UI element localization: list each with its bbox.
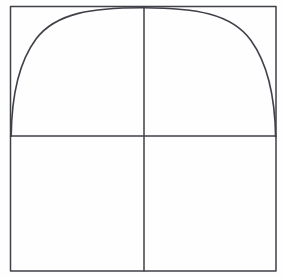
geometric-diagram bbox=[0, 0, 284, 278]
paper-background bbox=[0, 0, 284, 278]
figure-canvas bbox=[0, 0, 284, 278]
